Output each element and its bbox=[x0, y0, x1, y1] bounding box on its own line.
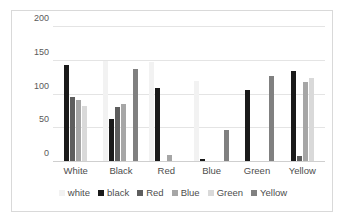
x-axis-tick-label: White bbox=[53, 165, 98, 176]
legend-swatch-icon bbox=[251, 190, 257, 196]
legend-item[interactable]: Red bbox=[137, 187, 163, 198]
bar-group bbox=[280, 27, 325, 162]
bar bbox=[76, 100, 81, 162]
y-axis-tick-label: 100 bbox=[19, 82, 49, 91]
legend-swatch-icon bbox=[208, 190, 214, 196]
bar-group bbox=[234, 27, 279, 162]
chart-legend: whiteblackRedBlueGreenYellow bbox=[32, 187, 314, 198]
legend-swatch-icon bbox=[98, 190, 104, 196]
legend-item[interactable]: Green bbox=[208, 187, 243, 198]
bar bbox=[309, 78, 314, 162]
bar bbox=[149, 62, 154, 162]
y-axis-tick-label: 150 bbox=[19, 48, 49, 57]
legend-label: Green bbox=[217, 187, 243, 198]
y-axis-tick-label: 0 bbox=[19, 149, 49, 158]
x-axis-tick-label: Green bbox=[234, 165, 279, 176]
bar bbox=[115, 107, 120, 162]
bar bbox=[82, 106, 87, 162]
bar bbox=[103, 61, 108, 162]
bar bbox=[64, 65, 69, 162]
bar bbox=[133, 69, 138, 162]
legend-label: Red bbox=[146, 187, 163, 198]
bar bbox=[121, 104, 126, 162]
x-axis-tick-label: Yellow bbox=[280, 165, 325, 176]
legend-label: Blue bbox=[181, 187, 200, 198]
legend-swatch-icon bbox=[59, 190, 65, 196]
y-axis-tick-label: 200 bbox=[19, 14, 49, 23]
bar bbox=[269, 76, 274, 162]
y-axis-tick-label: 50 bbox=[19, 115, 49, 124]
legend-label: black bbox=[107, 187, 129, 198]
legend-item[interactable]: Yellow bbox=[251, 187, 287, 198]
x-axis-tick-label: Blue bbox=[189, 165, 234, 176]
legend-label: Yellow bbox=[260, 187, 287, 198]
bar-groups bbox=[53, 27, 325, 162]
bar bbox=[155, 88, 160, 162]
plot-area bbox=[53, 27, 325, 162]
legend-swatch-icon bbox=[172, 190, 178, 196]
bar-group bbox=[98, 27, 143, 162]
bar-group bbox=[144, 27, 189, 162]
legend-label: white bbox=[68, 187, 90, 198]
bar bbox=[245, 90, 250, 162]
bar-group bbox=[53, 27, 98, 162]
y-axis: 050100150200 bbox=[17, 27, 49, 162]
legend-item[interactable]: white bbox=[59, 187, 90, 198]
legend-item[interactable]: Blue bbox=[172, 187, 200, 198]
bar bbox=[194, 81, 199, 162]
x-axis-tick-label: Black bbox=[98, 165, 143, 176]
x-axis-baseline bbox=[53, 161, 325, 162]
bar bbox=[291, 71, 296, 162]
chart-container: 050100150200 WhiteBlackRedBlueGreenYello… bbox=[11, 10, 333, 212]
bar bbox=[303, 82, 308, 162]
bar bbox=[70, 97, 75, 162]
bar bbox=[109, 119, 114, 162]
x-axis: WhiteBlackRedBlueGreenYellow bbox=[53, 165, 325, 176]
legend-item[interactable]: black bbox=[98, 187, 129, 198]
x-axis-tick-label: Red bbox=[144, 165, 189, 176]
bar bbox=[224, 130, 229, 162]
bar-group bbox=[189, 27, 234, 162]
legend-swatch-icon bbox=[137, 190, 143, 196]
